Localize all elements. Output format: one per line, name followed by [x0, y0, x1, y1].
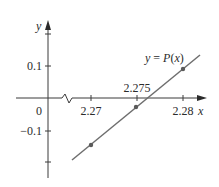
x-axis-arrow-icon [197, 95, 207, 101]
y-axis-arrow-icon [45, 20, 51, 30]
data-point [134, 105, 138, 109]
axis-break-icon [62, 94, 72, 103]
x-tick-label: 2.275 [124, 81, 151, 95]
data-point [181, 67, 185, 71]
y-tick-label: −0.1 [20, 124, 42, 138]
x-tick-label: 2.28 [173, 104, 194, 118]
x-axis-label: x [197, 104, 204, 118]
y-axis-label: y [35, 19, 42, 33]
x-tick-label: 2.27 [81, 104, 102, 118]
x-axis: 0 2.27 2.275 2.28 x [16, 81, 207, 118]
y-tick-label: 0.1 [27, 59, 42, 73]
origin-label: 0 [36, 104, 42, 118]
data-point [89, 143, 93, 147]
curve-label: y = P(x) [144, 51, 184, 65]
chart: y 0.1 −0.1 0 2.27 2.275 2.28 x y = P(x) [0, 0, 219, 187]
